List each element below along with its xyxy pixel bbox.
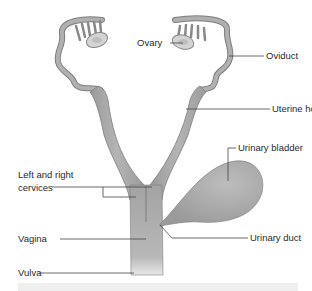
- label-cervices-line1: Left and right: [18, 169, 73, 180]
- label-cervices-line2: cervices: [18, 182, 53, 193]
- caption-bar: [18, 283, 298, 291]
- vagina-body: [130, 185, 163, 275]
- label-vulva: Vulva: [18, 267, 41, 278]
- urinary-bladder: [160, 161, 263, 226]
- label-ovary: Ovary: [137, 37, 162, 48]
- left-ovary: [84, 30, 109, 51]
- label-vagina: Vagina: [18, 233, 47, 244]
- left-uterine-horn: [90, 86, 144, 200]
- left-oviduct: [58, 19, 102, 90]
- label-urinary-bladder: Urinary bladder: [238, 142, 303, 153]
- label-oviduct: Oviduct: [266, 50, 298, 61]
- label-urinary-duct: Urinary duct: [250, 232, 301, 243]
- label-uterine-horn: Uterine horn: [272, 103, 312, 114]
- right-oviduct: [175, 18, 230, 90]
